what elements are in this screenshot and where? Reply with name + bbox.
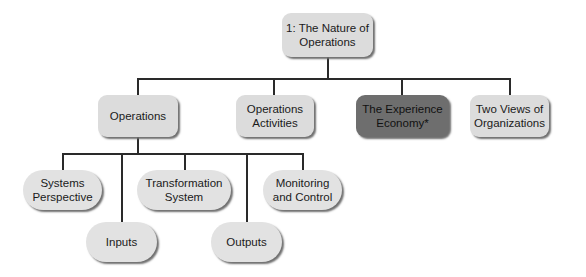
connector-outputs — [246, 153, 248, 222]
node-operations-activities: Operations Activities — [236, 95, 314, 137]
node-inputs: Inputs — [86, 222, 157, 262]
node-operations: Operations — [98, 95, 178, 137]
node-two-views: Two Views of Organizations — [470, 95, 549, 137]
connector-transformation — [184, 153, 186, 170]
node-label: Operations Activities — [240, 102, 310, 130]
connector-experience — [401, 78, 403, 95]
node-transformation-system: Transformation System — [137, 170, 231, 210]
connector-level3-bar — [62, 153, 304, 155]
node-label: Inputs — [106, 235, 137, 249]
node-experience-economy: The Experience Economy* — [356, 95, 449, 137]
node-outputs: Outputs — [211, 222, 282, 262]
node-label: Transformation System — [141, 176, 227, 204]
node-label: Operations — [110, 109, 166, 123]
node-monitoring-control: Monitoring and Control — [263, 170, 342, 210]
connector-monitoring — [302, 153, 304, 170]
root-node-label: 1: The Nature of Operations — [286, 21, 369, 49]
root-node: 1: The Nature of Operations — [282, 13, 373, 57]
connector-two-views — [509, 78, 511, 95]
node-label: Two Views of Organizations — [474, 102, 545, 130]
connector-systems — [62, 153, 64, 170]
connector-level2-bar — [137, 78, 511, 80]
node-label: Systems Perspective — [27, 176, 98, 204]
node-label: Outputs — [226, 235, 266, 249]
node-label: The Experience Economy* — [360, 102, 445, 130]
connector-inputs — [121, 153, 123, 222]
connector-activities — [273, 78, 275, 95]
node-label: Monitoring and Control — [267, 176, 338, 204]
connector-root-down — [327, 57, 329, 79]
connector-operations-down — [137, 137, 139, 154]
connector-operations — [137, 78, 139, 95]
node-systems-perspective: Systems Perspective — [23, 170, 102, 210]
